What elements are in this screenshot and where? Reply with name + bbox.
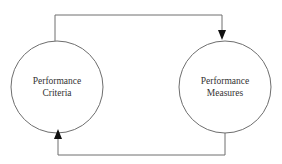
top-connector-line (55, 15, 222, 41)
arrow-down-icon (218, 30, 226, 40)
criteria-label-line-1: Performance (15, 75, 99, 87)
performance-criteria-label: Performance Criteria (15, 75, 99, 99)
bottom-connector-line (58, 133, 225, 155)
performance-measures-label: Performance Measures (183, 75, 267, 99)
measures-label-line-2: Measures (183, 87, 267, 99)
criteria-label-line-2: Criteria (15, 87, 99, 99)
arrow-up-icon (54, 129, 62, 139)
measures-label-line-1: Performance (183, 75, 267, 87)
